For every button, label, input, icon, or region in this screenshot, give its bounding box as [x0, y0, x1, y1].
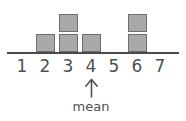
- mean-annotation: mean: [80, 78, 102, 114]
- data-square: [82, 34, 101, 52]
- square-stack-column: [57, 14, 79, 52]
- square-stack-column: [80, 34, 102, 52]
- tick-label: 1: [11, 56, 33, 76]
- data-square: [59, 14, 78, 32]
- tick-label-row: 1234567: [0, 56, 186, 78]
- data-square: [36, 34, 55, 52]
- square-stacks: [0, 0, 186, 52]
- tick-label: 5: [103, 56, 125, 76]
- square-stack-column: [126, 14, 148, 52]
- mean-label: mean: [73, 99, 110, 114]
- number-line-axis: [7, 52, 179, 54]
- square-stack-column: [34, 34, 56, 52]
- tick-label: 3: [57, 56, 79, 76]
- tick-label: 4: [80, 56, 102, 76]
- tick-label: 6: [126, 56, 148, 76]
- tick-label: 2: [34, 56, 56, 76]
- data-square: [128, 14, 147, 32]
- tick-label: 7: [149, 56, 171, 76]
- mean-dot-plot-figure: 1234567 mean: [0, 0, 186, 121]
- data-square: [59, 34, 78, 52]
- data-square: [128, 34, 147, 52]
- up-arrow-icon: [84, 78, 99, 98]
